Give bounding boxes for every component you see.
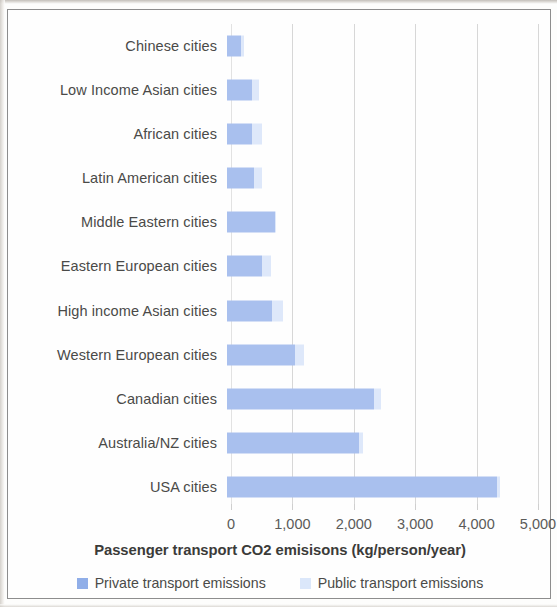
x-tick-mark	[354, 504, 355, 510]
x-tick-label: 2,000	[336, 516, 372, 532]
stacked-bar[interactable]	[227, 212, 276, 233]
bar-rows: Chinese citiesLow Income Asian citiesAfr…	[15, 24, 545, 509]
bar-track	[227, 24, 545, 68]
bar-segment-public[interactable]	[272, 300, 283, 321]
x-tick-mark	[538, 504, 539, 510]
category-label: Middle Eastern cities	[15, 214, 227, 230]
scan-edge-left	[0, 0, 5, 607]
x-tick-label: 4,000	[458, 516, 494, 532]
x-axis-title: Passenger transport CO2 emisisons (kg/pe…	[8, 542, 552, 558]
category-label: Chinese cities	[15, 38, 227, 54]
bar-segment-private[interactable]	[227, 256, 262, 277]
bar-row: African cities	[15, 112, 545, 156]
stacked-bar[interactable]	[227, 80, 259, 101]
bar-track	[227, 200, 545, 244]
category-label: Eastern European cities	[15, 258, 227, 274]
bar-segment-public[interactable]	[374, 388, 381, 409]
bar-segment-public[interactable]	[252, 124, 262, 145]
bar-segment-public[interactable]	[262, 256, 271, 277]
chart-legend: Private transport emissionsPublic transp…	[8, 575, 552, 591]
x-tick-mark	[415, 504, 416, 510]
bar-row: Latin American cities	[15, 156, 545, 200]
bar-track	[227, 289, 545, 333]
bar-row: High income Asian cities	[15, 289, 545, 333]
scan-edge-top	[0, 0, 557, 4]
bar-segment-private[interactable]	[227, 476, 497, 497]
category-label: USA cities	[15, 479, 227, 495]
bar-row: Low Income Asian cities	[15, 68, 545, 112]
bar-row: Eastern European cities	[15, 244, 545, 288]
stacked-bar[interactable]	[227, 300, 283, 321]
bar-segment-private[interactable]	[227, 80, 252, 101]
category-label: High income Asian cities	[15, 303, 227, 319]
bar-row: Chinese cities	[15, 24, 545, 68]
bar-segment-public[interactable]	[252, 80, 259, 101]
public-swatch	[300, 578, 311, 589]
bar-track	[227, 156, 545, 200]
category-label: Western European cities	[15, 347, 227, 363]
bar-row: Canadian cities	[15, 377, 545, 421]
bar-row: Western European cities	[15, 333, 545, 377]
x-tick-label: 5,000	[520, 516, 556, 532]
bar-segment-public[interactable]	[359, 432, 363, 453]
bar-segment-public[interactable]	[241, 36, 243, 57]
bar-segment-private[interactable]	[227, 388, 374, 409]
x-tick-label: 0	[227, 516, 235, 532]
bar-segment-private[interactable]	[227, 344, 295, 365]
bar-segment-public[interactable]	[295, 344, 304, 365]
bar-track	[227, 465, 545, 509]
x-tick-mark	[292, 504, 293, 510]
category-label: Australia/NZ cities	[15, 435, 227, 451]
x-tick-label: 3,000	[397, 516, 433, 532]
stacked-bar[interactable]	[227, 36, 244, 57]
bar-row: USA cities	[15, 465, 545, 509]
legend-label: Private transport emissions	[95, 575, 266, 591]
x-tick-mark	[231, 504, 232, 510]
stacked-bar[interactable]	[227, 256, 271, 277]
bar-segment-public[interactable]	[254, 168, 262, 189]
chart-frame: Chinese citiesLow Income Asian citiesAfr…	[7, 9, 551, 599]
bar-segment-private[interactable]	[227, 300, 272, 321]
bar-segment-private[interactable]	[227, 36, 241, 57]
category-label: African cities	[15, 126, 227, 142]
legend-item[interactable]: Private transport emissions	[77, 575, 266, 591]
stacked-bar[interactable]	[227, 168, 262, 189]
x-axis: 01,0002,0003,0004,0005,000	[15, 510, 545, 534]
bar-segment-public[interactable]	[497, 476, 500, 497]
stacked-bar[interactable]	[227, 432, 363, 453]
bar-track	[227, 112, 545, 156]
stacked-bar[interactable]	[227, 344, 304, 365]
x-tick-mark	[477, 504, 478, 510]
stacked-bar[interactable]	[227, 476, 500, 497]
bar-row: Middle Eastern cities	[15, 200, 545, 244]
bar-track	[227, 421, 545, 465]
stacked-bar[interactable]	[227, 124, 262, 145]
category-label: Low Income Asian cities	[15, 82, 227, 98]
bar-track	[227, 333, 545, 377]
bar-segment-private[interactable]	[227, 168, 254, 189]
x-tick-label: 1,000	[274, 516, 310, 532]
bar-segment-private[interactable]	[227, 124, 252, 145]
bar-track	[227, 68, 545, 112]
category-label: Canadian cities	[15, 391, 227, 407]
bar-track	[227, 377, 545, 421]
chart-figure: Chinese citiesLow Income Asian citiesAfr…	[0, 0, 557, 607]
bar-segment-private[interactable]	[227, 432, 359, 453]
stacked-bar[interactable]	[227, 388, 381, 409]
bar-track	[227, 244, 545, 288]
bar-segment-private[interactable]	[227, 212, 275, 233]
bar-row: Australia/NZ cities	[15, 421, 545, 465]
private-swatch	[77, 578, 88, 589]
legend-label: Public transport emissions	[318, 575, 484, 591]
category-label: Latin American cities	[15, 170, 227, 186]
bar-segment-public[interactable]	[275, 212, 276, 233]
legend-item[interactable]: Public transport emissions	[300, 575, 484, 591]
